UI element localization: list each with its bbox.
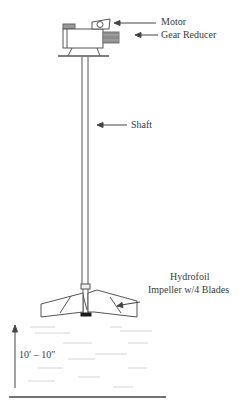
drive-assembly	[58, 19, 119, 56]
impeller-label-line1: Hydrofoil	[170, 272, 209, 282]
label-arrows	[13, 21, 159, 389]
junction-box	[63, 24, 75, 29]
hydrofoil-impeller	[41, 280, 137, 317]
shaft-label: Shaft	[131, 120, 152, 130]
gear-reducer-icon	[103, 32, 119, 43]
motor-label: Motor	[161, 17, 186, 27]
hub-bottom	[81, 313, 91, 316]
gear-reducer-label: Gear Reducer	[161, 30, 216, 40]
shaft	[82, 57, 88, 280]
impeller-label-line2: Impeller w/4 Blades	[148, 285, 229, 295]
depth-label: 10′ – 10″	[19, 350, 55, 360]
motor-housing	[63, 29, 103, 48]
